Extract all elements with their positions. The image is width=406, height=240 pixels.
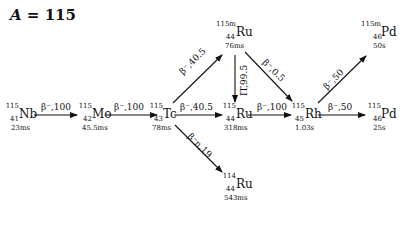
element-symbol: Pd — [381, 107, 397, 121]
nuclide-ru115m: 115m 44 Ru 76ms — [236, 26, 253, 38]
element-symbol: Mo — [92, 107, 112, 121]
mass-number: 115m — [216, 21, 236, 28]
nuclide-pd115: 115 46 Pd 25s — [381, 108, 397, 120]
decay-label-rh-pd: β⁻,50 — [328, 103, 352, 112]
half-life: 23ms — [11, 125, 30, 132]
half-life: 78ms — [152, 125, 171, 132]
atomic-number: 44 — [226, 34, 235, 41]
mass-number: 115 — [79, 103, 92, 110]
nuclide-mo115: 115 42 Mo 45.5ms — [92, 108, 112, 120]
half-life: 543ms — [224, 195, 248, 202]
nuclide-nb115: 115 41 Nb 23ms — [19, 108, 37, 120]
decay-label-ru-rh: β⁻,100 — [257, 103, 287, 112]
element-symbol: Nb — [19, 107, 37, 121]
element-symbol: Pd — [381, 25, 397, 39]
atomic-number: 43 — [154, 116, 163, 123]
element-symbol: Ru — [236, 177, 253, 191]
half-life: 1.03s — [295, 125, 314, 132]
atomic-number: 42 — [83, 116, 92, 123]
mass-number: 114 — [223, 173, 236, 180]
atomic-number: 46 — [373, 116, 382, 123]
nuclide-rh115: 115 45 Rh 1.03s — [305, 108, 322, 120]
element-symbol: Rh — [305, 107, 322, 121]
atomic-number: 45 — [295, 116, 304, 123]
decay-label-rum-ru: IT,99.5 — [240, 65, 249, 96]
decay-label-mo-tc: β⁻,100 — [114, 103, 144, 112]
element-symbol: Ru — [236, 107, 253, 121]
nuclide-tc115: 115 43 Tc 78ms — [163, 108, 177, 120]
atomic-number: 46 — [373, 34, 382, 41]
half-life: 318ms — [224, 125, 248, 132]
nuclide-ru115: 115 44 Ru 318ms — [236, 108, 253, 120]
mass-number: 115 — [223, 103, 236, 110]
decay-label-nb-mo: β⁻,100 — [41, 103, 71, 112]
nuclide-pd115m: 115m 46 Pd 50s — [381, 26, 397, 38]
decay-label-tc-ru: β⁻,40.5 — [180, 103, 213, 112]
mass-number: 115 — [368, 103, 381, 110]
atomic-number: 44 — [226, 186, 235, 193]
atomic-number: 44 — [226, 116, 235, 123]
half-life: 50s — [373, 43, 386, 50]
mass-number: 115m — [361, 21, 381, 28]
element-symbol: Ru — [236, 25, 253, 39]
atomic-number: 41 — [10, 116, 19, 123]
mass-number: 115 — [6, 103, 19, 110]
mass-number: 115 — [292, 103, 305, 110]
nuclide-ru114: 114 44 Ru 543ms — [236, 178, 253, 190]
half-life: 45.5ms — [82, 125, 108, 132]
mass-number: 115 — [150, 103, 163, 110]
half-life: 76ms — [225, 43, 244, 50]
element-symbol: Tc — [163, 107, 177, 121]
half-life: 25s — [373, 125, 386, 132]
